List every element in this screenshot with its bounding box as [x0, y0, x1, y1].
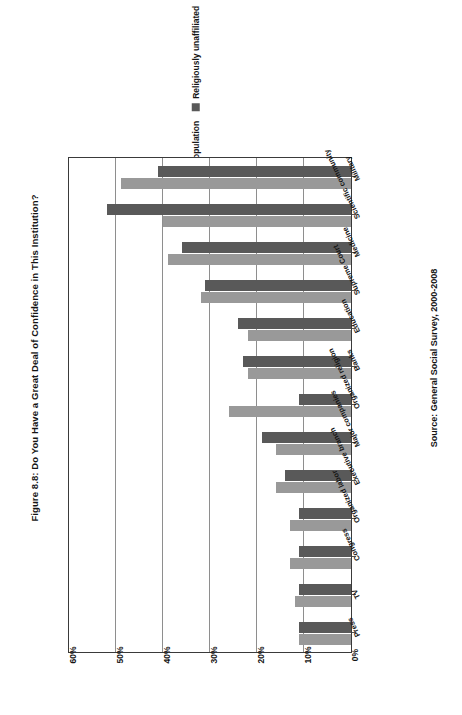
bar-religiously-unaffiliated	[107, 204, 351, 215]
value-tick-label: 50%	[115, 646, 125, 663]
value-tick-label: 0%	[350, 649, 360, 661]
value-tick-label: 40%	[162, 646, 172, 663]
bar-group	[69, 386, 351, 424]
value-tick-label: 20%	[256, 646, 266, 663]
bar-general-population	[290, 558, 351, 569]
bar-group	[69, 310, 351, 348]
value-tick-label: 30%	[209, 646, 219, 663]
category-label-tv: TV	[350, 588, 362, 600]
bar-group	[69, 196, 351, 234]
bar-general-population	[295, 596, 351, 607]
bar-religiously-unaffiliated	[205, 280, 351, 291]
figure-title: Figure 8.8: Do You Have a Great Deal of …	[24, 0, 44, 715]
bar-general-population	[121, 178, 351, 189]
bar-group	[69, 462, 351, 500]
figure-title-text: Figure 8.8: Do You Have a Great Deal of …	[29, 194, 40, 521]
bar-general-population	[299, 634, 351, 645]
value-tick-label: 60%	[68, 646, 78, 663]
bar-general-population	[201, 292, 351, 303]
bar-general-population	[248, 330, 351, 341]
category-axis-labels: MilitaryScientific communityMedicineSupr…	[352, 157, 457, 653]
bar-group	[69, 538, 351, 576]
bar-general-population	[229, 406, 351, 417]
bar-group	[69, 348, 351, 386]
bar-group	[69, 272, 351, 310]
legend-label-religiously-unaffiliated: Religiously unaffiliated	[192, 6, 201, 99]
bar-group	[69, 500, 351, 538]
bar-religiously-unaffiliated	[299, 622, 351, 633]
bar-religiously-unaffiliated	[299, 508, 351, 519]
bar-religiously-unaffiliated	[158, 166, 351, 177]
legend-swatch-religiously-unaffiliated	[192, 103, 200, 111]
bar-group	[69, 424, 351, 462]
bar-religiously-unaffiliated	[299, 394, 351, 405]
bar-general-population	[163, 216, 351, 227]
bar-religiously-unaffiliated	[299, 584, 351, 595]
bar-general-population	[168, 254, 351, 265]
bar-religiously-unaffiliated	[182, 242, 351, 253]
bar-group	[69, 576, 351, 614]
value-axis-labels: 0%10%20%30%40%50%60%	[68, 655, 352, 689]
bar-religiously-unaffiliated	[238, 318, 351, 329]
bar-group	[69, 158, 351, 196]
bar-religiously-unaffiliated	[299, 546, 351, 557]
value-tick-label: 10%	[303, 646, 313, 663]
bar-group	[69, 234, 351, 272]
legend-item-religiously-unaffiliated: Religiously unaffiliated	[192, 6, 201, 111]
chart-plot-area	[68, 157, 352, 653]
